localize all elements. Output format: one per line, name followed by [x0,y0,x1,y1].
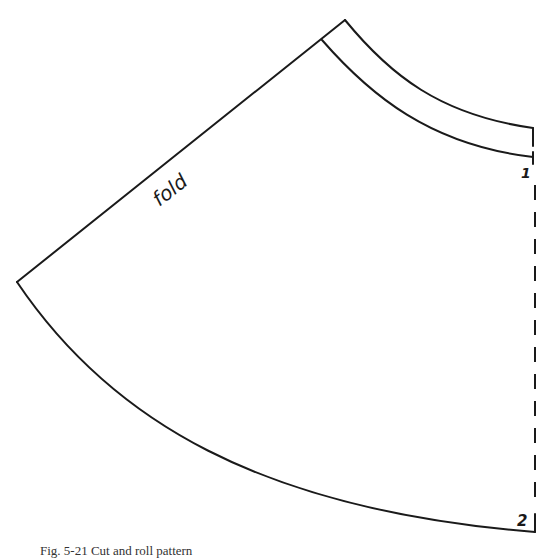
fold-line [17,20,345,282]
point-1-label: 1 [521,165,531,181]
waistline-curve [322,40,533,157]
waistband-outer-curve [345,20,533,128]
figure-caption: Fig. 5-21 Cut and roll pattern [40,543,192,559]
point-2-label: 2 [517,512,527,530]
fold-label: fold [148,169,193,211]
hem-curve [17,282,535,532]
